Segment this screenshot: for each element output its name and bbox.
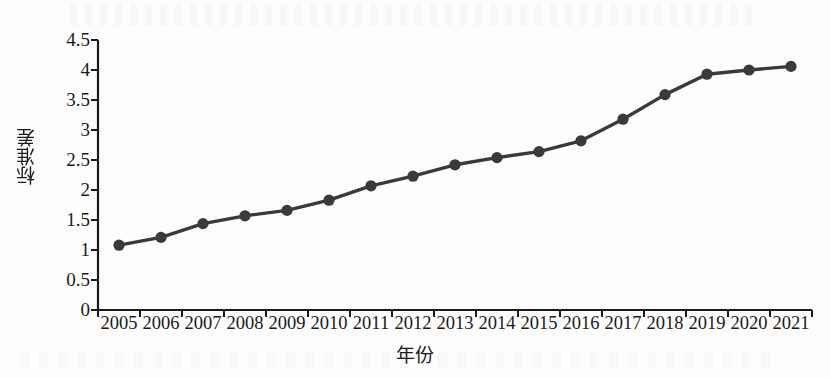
x-axis-tick-label: 2013: [431, 313, 479, 334]
x-axis-tick-label: 2012: [389, 313, 437, 334]
data-point-marker: [449, 159, 460, 170]
data-point-marker: [155, 232, 166, 243]
x-axis-tick-label: 2020: [725, 313, 773, 334]
data-point-marker: [617, 114, 628, 125]
data-point-marker: [785, 61, 796, 72]
x-axis-tick-label: 2019: [683, 313, 731, 334]
x-axis-tick-label: 2015: [515, 313, 563, 334]
x-axis-tick-label: 2016: [557, 313, 605, 334]
data-point-marker: [743, 64, 754, 75]
x-axis-tick-label: 2014: [473, 313, 521, 334]
x-axis-title: 年份: [0, 340, 830, 367]
data-point-marker: [407, 171, 418, 182]
data-point-marker: [239, 210, 250, 221]
x-axis-tick-label: 2011: [347, 313, 395, 334]
chart-figure: 标准差 00.511.522.533.544.5 200520062007200…: [0, 0, 830, 378]
data-point-marker: [659, 89, 670, 100]
data-point-marker: [575, 135, 586, 146]
x-axis-tick-label: 2021: [767, 313, 815, 334]
x-axis-tick-label: 2010: [305, 313, 353, 334]
data-point-marker: [323, 195, 334, 206]
x-axis-tick-label: 2018: [641, 313, 689, 334]
data-point-marker: [533, 146, 544, 157]
x-axis-tick-label: 2005: [95, 313, 143, 334]
x-axis-tick-label: 2006: [137, 313, 185, 334]
data-point-marker: [113, 240, 124, 251]
data-point-marker: [365, 180, 376, 191]
x-axis-tick-label: 2009: [263, 313, 311, 334]
x-axis-tick-labels: 2005200620072008200920102011201220132014…: [0, 313, 830, 341]
x-axis-tick-label: 2017: [599, 313, 647, 334]
data-line-series-standard-deviation: [119, 66, 791, 245]
axes: [98, 40, 812, 310]
x-axis-tick-label: 2008: [221, 313, 269, 334]
data-point-marker: [701, 69, 712, 80]
data-point-marker: [197, 218, 208, 229]
data-point-marker: [281, 205, 292, 216]
data-point-marker: [491, 152, 502, 163]
x-axis-tick-label: 2007: [179, 313, 227, 334]
